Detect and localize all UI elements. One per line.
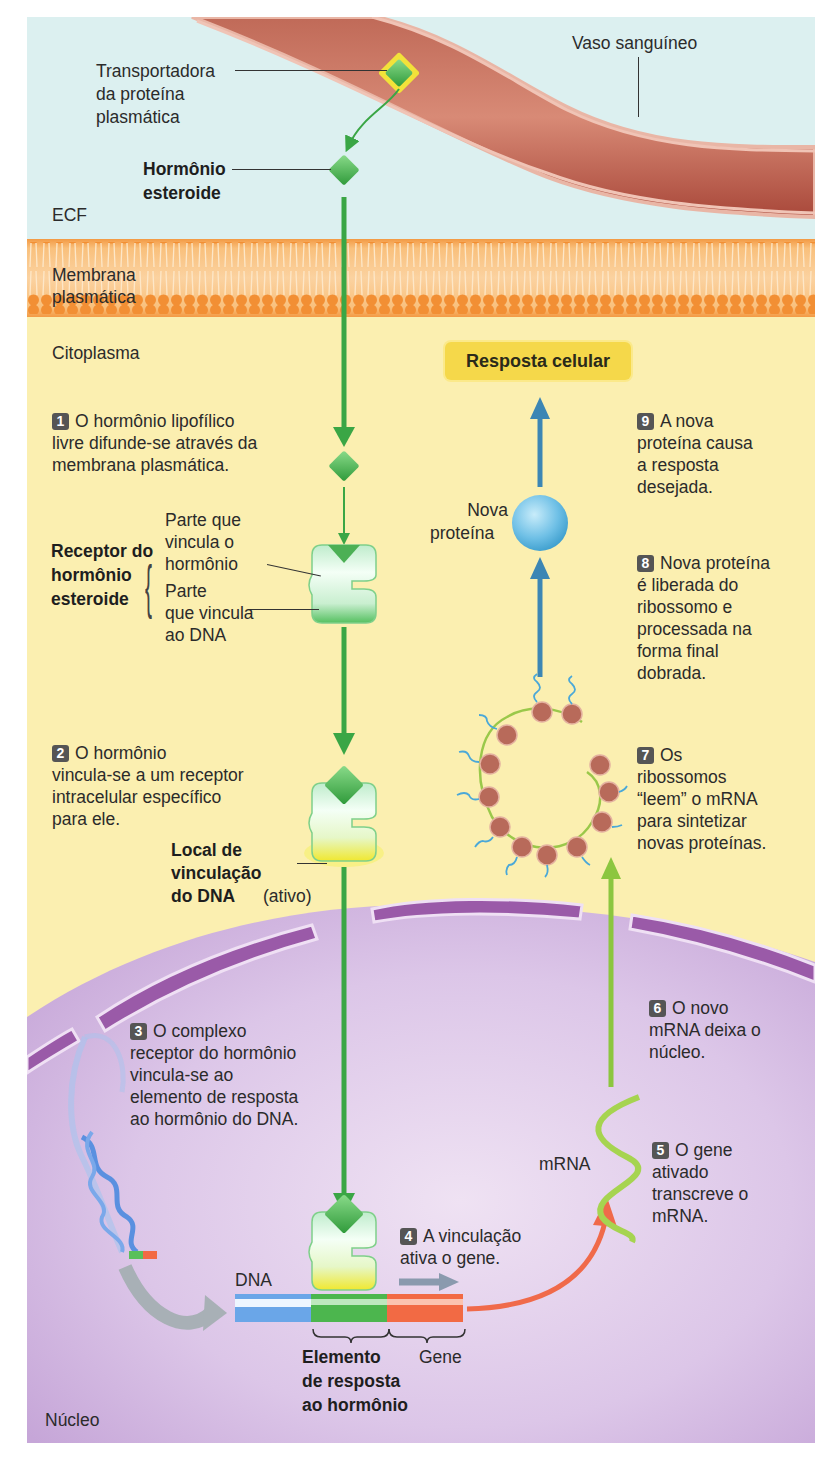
step-3: 3O complexo receptor do hormôniovincula-… <box>130 1020 298 1130</box>
dna-site-label-2: vinculação <box>171 863 261 885</box>
dna-site-state: (ativo) <box>263 886 312 908</box>
step-5: 5O gene ativadotranscreve omRNA. <box>652 1139 748 1227</box>
step-1: 1O hormônio lipofílico livre difunde-se … <box>52 410 257 476</box>
dna-binding-leader <box>249 609 319 610</box>
step-6: 6O novo mRNA deixa onúcleo. <box>649 997 761 1063</box>
dna-binding-label-2: que vincula <box>165 603 254 625</box>
step-badge: 1 <box>52 413 69 430</box>
dna-strand <box>235 1294 463 1322</box>
gene-label: Gene <box>419 1347 462 1369</box>
hre-label-1: Elemento <box>302 1347 381 1369</box>
dna-site-label-1: Local de <box>171 840 242 862</box>
dna-label: DNA <box>235 1270 272 1292</box>
dna-site-leader <box>297 863 327 864</box>
step-9: 9A nova proteína causaa respostadesejada… <box>637 410 753 498</box>
dna-binding-label-1: Parte <box>165 581 207 603</box>
carrier-label-3: plasmática <box>96 107 180 129</box>
mrna-label: mRNA <box>539 1154 591 1176</box>
hormone-binding-label-2: vincula o <box>165 532 234 554</box>
cytoplasm-label: Citoplasma <box>52 343 140 365</box>
ecf-label: ECF <box>52 205 87 227</box>
receptor-label-2: hormônio <box>51 565 132 587</box>
carrier-label-2: da proteína <box>96 84 185 106</box>
hre-label-3: ao hormônio <box>302 1395 408 1417</box>
step-7: 7Os ribossomos“leem” o mRNA para sinteti… <box>637 744 766 854</box>
hormone-binding-label-1: Parte que <box>165 510 241 532</box>
steroid-hormone-mechanism-figure: ECF Membrana plasmática Citoplasma Núcle… <box>27 17 815 1443</box>
steroid-hormone-label-1: Hormônio <box>143 159 226 181</box>
carrier-leader-line <box>235 70 387 71</box>
membrane-label: Membrana plasmática <box>52 265 182 308</box>
dna-site-label-3: do DNA <box>171 886 235 908</box>
receptor-label-1: Receptor do <box>51 541 153 563</box>
receptor-label-3: esteroide <box>51 589 129 611</box>
steroid-hormone-label-2: esteroide <box>143 183 221 205</box>
carrier-label-1: Transportadora <box>96 61 215 83</box>
new-protein-sphere <box>512 495 568 551</box>
new-protein-label-1: Nova <box>458 500 508 522</box>
hormone-leader-line <box>232 169 331 170</box>
cell-response-box: Resposta celular <box>445 342 631 380</box>
nucleus-label: Núcleo <box>45 1410 99 1432</box>
step-4: 4A vinculação ativa o gene. <box>400 1225 521 1269</box>
new-protein-label-2: proteína <box>430 523 494 545</box>
vessel-leader <box>638 57 639 117</box>
receptor-brace: { <box>145 507 152 667</box>
hormone-binding-label-3: hormônio <box>165 554 238 576</box>
dna-binding-label-3: ao DNA <box>165 625 226 647</box>
blood-vessel-label: Vaso sanguíneo <box>572 33 697 55</box>
hre-label-2: de resposta <box>302 1371 400 1393</box>
step-2: 2O hormônio vincula-se a um receptorintr… <box>52 742 244 830</box>
step-8: 8Nova proteína é liberada doribossomo e … <box>637 552 770 684</box>
